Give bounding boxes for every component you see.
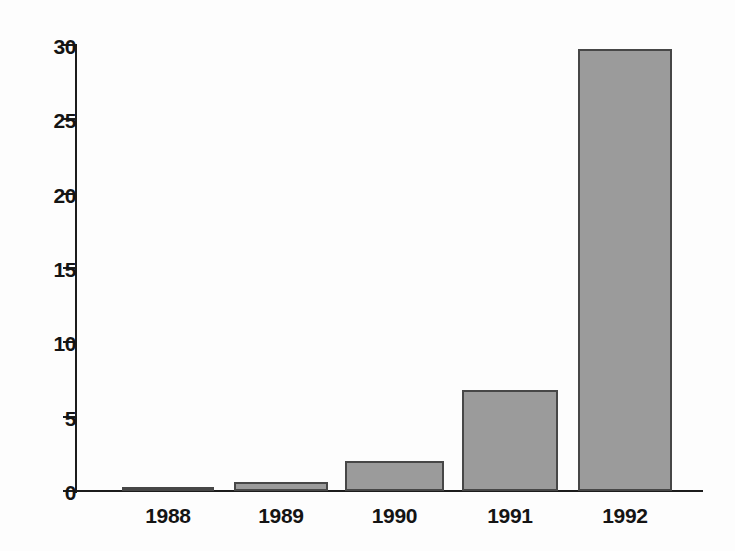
bar-chart-figure: 051015202530 19881989199019911992 bbox=[0, 0, 735, 551]
bar-1992 bbox=[578, 49, 672, 491]
y-tick-label: 15 bbox=[30, 259, 76, 280]
y-tick-label: 20 bbox=[30, 184, 76, 205]
y-tick-label: 25 bbox=[30, 110, 76, 131]
y-tick-label: 0 bbox=[30, 482, 76, 503]
bar-1990 bbox=[345, 461, 444, 491]
bars-layer bbox=[75, 45, 703, 491]
y-tick-label: 5 bbox=[30, 407, 76, 428]
y-tick-label: 10 bbox=[30, 333, 76, 354]
bar-1989 bbox=[234, 482, 328, 491]
x-axis-label-1989: 1989 bbox=[258, 505, 304, 526]
x-axis-label-1990: 1990 bbox=[372, 505, 418, 526]
x-axis-label-1991: 1991 bbox=[487, 505, 533, 526]
x-axis-label-1988: 1988 bbox=[145, 505, 191, 526]
bar-1988 bbox=[122, 487, 214, 491]
x-axis-label-1992: 1992 bbox=[602, 505, 648, 526]
y-tick-label: 30 bbox=[30, 36, 76, 57]
bar-1991 bbox=[462, 390, 558, 491]
